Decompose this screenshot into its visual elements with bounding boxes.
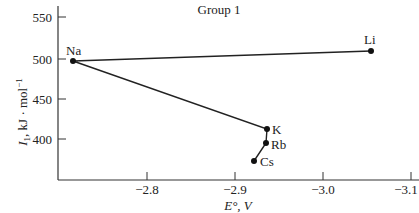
label-li: Li <box>364 32 376 47</box>
label-rb: Rb <box>271 137 286 152</box>
chart: 550 500 450 400 −2.8 −2.9 −3.0 −3.1 E°, … <box>0 0 419 213</box>
label-k: K <box>272 122 282 137</box>
y-ticks <box>58 17 66 139</box>
y-tick-label: 400 <box>33 132 53 147</box>
y-tick-label: 550 <box>33 10 53 25</box>
series-line <box>73 51 371 161</box>
x-axis-label: E°, V <box>223 198 254 213</box>
point-rb <box>263 140 269 146</box>
x-tick-label: −2.9 <box>223 182 247 197</box>
x-tick-label: −2.8 <box>135 182 159 197</box>
svg-text:I1, kJ · mol−1: I1, kJ · mol−1 <box>14 78 32 147</box>
point-na <box>70 58 76 64</box>
label-cs: Cs <box>260 154 274 169</box>
point-cs <box>251 158 257 164</box>
x-ticks <box>147 172 411 180</box>
y-axis-label: I1, kJ · mol−1 <box>14 78 32 147</box>
y-tick-label: 500 <box>33 52 53 67</box>
x-tick-label: −3.1 <box>394 182 418 197</box>
point-li <box>368 48 374 54</box>
y-tick-label: 450 <box>33 92 53 107</box>
chart-title: Group 1 <box>198 2 241 17</box>
x-tick-label: −3.0 <box>311 182 335 197</box>
label-na: Na <box>66 43 81 58</box>
point-k <box>264 126 270 132</box>
